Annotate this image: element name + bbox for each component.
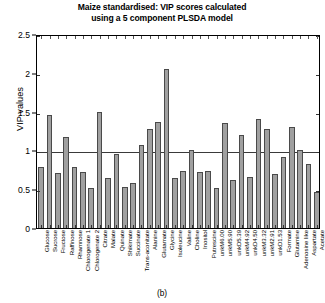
axis-tick	[316, 75, 319, 76]
axis-tick	[37, 114, 40, 115]
axis-tick	[316, 191, 319, 192]
x-tick-label: Rhamnose	[76, 230, 83, 259]
axis-tick	[175, 36, 176, 39]
axis-tick	[125, 225, 126, 228]
axis-tick	[58, 36, 59, 39]
axis-tick	[100, 36, 101, 39]
axis-tick	[91, 36, 92, 39]
x-tick-label: Putrescine	[210, 230, 217, 258]
axis-tick	[41, 225, 42, 228]
axis-tick	[208, 36, 209, 39]
axis-tick	[300, 36, 301, 39]
axis-tick	[242, 36, 243, 39]
bar	[164, 69, 170, 228]
axis-tick	[308, 36, 309, 39]
axis-tick	[258, 225, 259, 228]
axis-tick	[183, 225, 184, 228]
axis-tick	[233, 225, 234, 228]
y-axis-ticks: 00.511.522.5	[0, 35, 36, 229]
x-tick-label: Aspartate	[310, 230, 317, 256]
bar	[247, 177, 253, 228]
chart-title-line-2: using a 5 component PLSDA model	[0, 13, 324, 24]
axis-tick	[308, 225, 309, 228]
axis-tick	[166, 225, 167, 228]
x-tick-label: unkD5.39	[235, 230, 242, 256]
bar	[205, 171, 211, 228]
axis-tick	[125, 36, 126, 39]
x-tick-label: Glucose	[43, 230, 50, 252]
axis-tick	[158, 225, 159, 228]
axis-tick	[292, 36, 293, 39]
x-tick-label: Trans-aconitate	[143, 230, 150, 271]
axis-tick	[208, 225, 209, 228]
bar	[180, 171, 186, 228]
bar	[172, 178, 178, 228]
x-tick-label: Raffinose	[68, 230, 75, 255]
axis-tick	[58, 225, 59, 228]
bar	[97, 112, 103, 228]
bar	[63, 137, 69, 228]
bar	[189, 150, 195, 228]
axis-tick	[66, 225, 67, 228]
axis-tick	[133, 36, 134, 39]
bar	[281, 157, 287, 228]
x-tick-label: Acetate	[318, 230, 325, 250]
axis-tick	[75, 225, 76, 228]
axis-tick	[50, 36, 51, 39]
bar	[197, 172, 203, 228]
x-tick-label: Chlorogenate 2	[93, 230, 100, 271]
x-tick-label: Glutamate	[160, 230, 167, 258]
x-tick-label: unkM6.00	[218, 230, 225, 256]
axis-tick	[317, 36, 318, 39]
axis-tick	[83, 225, 84, 228]
axis-tick	[258, 36, 259, 39]
axis-tick	[50, 225, 51, 228]
axis-tick	[217, 225, 218, 228]
axis-tick	[66, 36, 67, 39]
axis-tick	[150, 36, 151, 39]
axis-tick	[200, 225, 201, 228]
bar	[147, 129, 153, 228]
bar	[38, 167, 44, 228]
axis-tick	[250, 225, 251, 228]
x-tick-label: Fructose	[59, 230, 66, 253]
axis-tick	[108, 225, 109, 228]
axis-tick	[267, 36, 268, 39]
axis-tick	[233, 36, 234, 39]
x-tick-label: Glutamine	[293, 230, 300, 257]
axis-tick	[250, 36, 251, 39]
bar	[72, 167, 78, 228]
bar	[130, 183, 136, 228]
x-axis-labels: GlucoseSucroseFructoseRaffinoseRhamnoseC…	[36, 230, 320, 292]
x-tick-label: Choline	[193, 230, 200, 250]
axis-tick	[83, 36, 84, 39]
bar	[105, 178, 111, 228]
x-tick-label: Succinate	[134, 230, 141, 256]
y-tick-label: 1	[25, 146, 30, 156]
axis-tick	[192, 36, 193, 39]
plot-area	[36, 35, 320, 229]
x-tick-label: unkM4.92	[243, 230, 250, 256]
x-tick-label: unkM5.90	[226, 230, 233, 256]
axis-tick	[41, 36, 42, 39]
bar	[222, 123, 228, 228]
x-tick-label: Inositol	[201, 230, 208, 249]
x-tick-label: unkD1.53	[276, 230, 283, 256]
bar	[256, 119, 262, 228]
y-tick-label: 0	[25, 224, 30, 234]
bar	[155, 122, 161, 228]
axis-tick	[316, 152, 319, 153]
x-tick-label: Adenosine like	[302, 230, 309, 269]
y-tick-label: 2	[25, 69, 30, 79]
bar	[214, 188, 220, 228]
x-tick-label: Glycine	[168, 230, 175, 250]
x-tick-label: Chlorogenate 1	[84, 230, 91, 271]
axis-tick	[300, 225, 301, 228]
x-tick-label: Valine	[185, 230, 192, 246]
axis-tick	[175, 225, 176, 228]
axis-tick	[217, 36, 218, 39]
x-tick-label: Quinate	[118, 230, 125, 251]
bar	[239, 135, 245, 228]
axis-tick	[116, 225, 117, 228]
axis-tick	[192, 225, 193, 228]
